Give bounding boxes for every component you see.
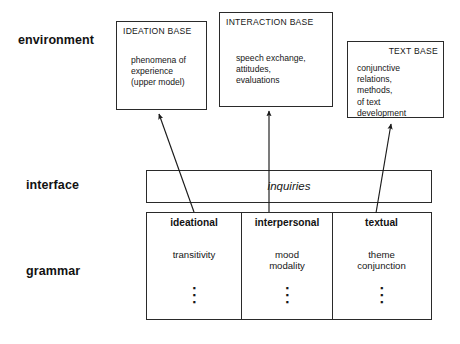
grammar-column-textual-header: textual (333, 217, 430, 228)
stratum-label-environment: environment (18, 33, 94, 47)
stratum-label-interface: interface (26, 178, 79, 192)
box-ideation-base-title: IDEATION BASE (123, 26, 192, 36)
box-interaction-base-title: INTERACTION BASE (226, 17, 314, 27)
grammar-table: ideational transitivity ▪▪▪ interpersona… (146, 212, 432, 320)
grammar-column-textual: textual theme conjunction ▪▪▪ (333, 213, 430, 319)
box-text-base: TEXT BASE conjunctive relations, methods… (347, 41, 444, 118)
grammar-column-interpersonal: interpersonal mood modality ▪▪▪ (242, 213, 333, 319)
box-ideation-base-body: phenomena of experience (upper model) (131, 55, 186, 89)
box-interaction-base-body: speech exchange, attitudes, evaluations (236, 53, 306, 87)
grammar-column-ideational-header: ideational (147, 217, 241, 228)
interface-bar-inquiries: inquiries (146, 170, 432, 203)
grammar-column-ideational: ideational transitivity ▪▪▪ (147, 213, 242, 319)
stratum-label-grammar: grammar (26, 264, 80, 278)
grammar-column-textual-ellipsis: ▪▪▪ (333, 285, 430, 307)
grammar-column-interpersonal-header: interpersonal (242, 217, 332, 228)
grammar-column-interpersonal-ellipsis: ▪▪▪ (242, 285, 332, 307)
grammar-column-interpersonal-body: mood modality (242, 249, 332, 272)
grammar-column-textual-body: theme conjunction (333, 249, 430, 272)
box-text-base-title: TEXT BASE (389, 46, 438, 56)
box-interaction-base: INTERACTION BASE speech exchange, attitu… (219, 12, 333, 107)
box-text-base-body: conjunctive relations, methods, of text … (357, 63, 406, 119)
grammar-column-ideational-body: transitivity (147, 249, 241, 260)
diagram-canvas: environment interface grammar IDEATION B… (0, 0, 460, 344)
box-ideation-base: IDEATION BASE phenomena of experience (u… (116, 21, 207, 110)
interface-bar-label: inquiries (147, 180, 431, 192)
grammar-column-ideational-ellipsis: ▪▪▪ (147, 285, 241, 307)
